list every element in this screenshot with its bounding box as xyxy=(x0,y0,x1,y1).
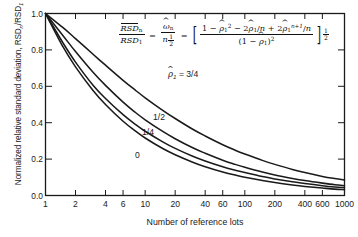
curve-label-one-half: 1/2 xyxy=(153,113,165,122)
rho-hat-symbol: ρ^ xyxy=(168,69,173,79)
x-tick-label: 200 xyxy=(268,200,282,209)
formula-equals-2: = xyxy=(181,30,188,40)
curve-label-one-quarter: 1/4 xyxy=(142,128,154,137)
x-tick-label: 6 xyxy=(121,200,126,209)
formula-annotation: RSDn RSD1 = ω^n n12 = [ 1 − ρ^12 − 2ρ^1/… xyxy=(117,22,329,47)
formula-mid-fraction: ω^n n12 xyxy=(160,22,176,47)
formula-mid-numerator: ω^n xyxy=(161,22,175,33)
formula-bracket-close: ] xyxy=(316,28,320,40)
formula-rhs-fraction: 1 − ρ^12 − 2ρ^1/n + 2ρ^1n+1/n (1 − ρ^1)2 xyxy=(200,23,313,46)
x-tick-label: 400 xyxy=(298,200,312,209)
curve-label-zero: 0 xyxy=(135,151,140,160)
formula-exponent-one-half: 12 xyxy=(323,28,329,42)
formula-rhs-denominator: (1 − ρ^1)2 xyxy=(237,35,277,46)
x-tick-label: 1000 xyxy=(335,200,354,209)
curve-label-three-quarters-text: = 3/4 xyxy=(179,69,198,79)
curve-label-three-quarters: ρ^1 = 3/4 xyxy=(168,70,198,80)
x-axis-title: Number of reference lots xyxy=(45,218,345,227)
x-tick-label: 100 xyxy=(238,200,252,209)
formula-lhs-denominator: RSD1 xyxy=(119,35,145,45)
hat-accent-icon: ^ xyxy=(167,64,174,72)
x-tick-label: 1 xyxy=(43,200,48,209)
x-tick-label: 600 xyxy=(315,200,329,209)
rho-subscript-1: 1 xyxy=(173,73,176,80)
chart-figure: 0.00.20.40.60.81.0 Normalized relative s… xyxy=(0,0,358,237)
x-tick-label: 2 xyxy=(73,200,78,209)
x-tick-label: 4 xyxy=(103,200,108,209)
formula-equals-1: = xyxy=(149,30,156,40)
x-tick-label: 10 xyxy=(140,200,150,209)
formula-mid-denominator: n12 xyxy=(160,33,176,47)
formula-bracket-open: [ xyxy=(192,28,196,40)
x-tick-label: 40 xyxy=(200,200,210,209)
x-tick-label: 20 xyxy=(170,200,180,209)
formula-lhs-fraction: RSDn RSD1 xyxy=(119,24,145,45)
x-tick-label: 60 xyxy=(218,200,228,209)
